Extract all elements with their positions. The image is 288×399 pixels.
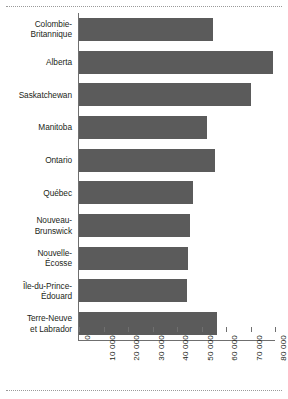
bar-category-label-line2: Écosse	[0, 258, 72, 268]
bar-category-label-line2: Brunswick	[0, 226, 72, 236]
x-axis-tick-label: 50 000	[206, 335, 215, 361]
bar	[79, 181, 193, 204]
bar-category-label-line1: Terre-Neuve	[0, 313, 72, 323]
bar-category-label: Saskatchewan	[0, 90, 72, 100]
bar-category-label: Ontario	[0, 155, 72, 165]
bar-row: Manitoba	[0, 111, 288, 144]
bar-category-label-line2: Britannique	[0, 29, 72, 39]
bar-row: Nouvelle-Écosse	[0, 242, 288, 275]
bar-category-label-line1: Alberta	[0, 57, 72, 67]
bar-category-label: Nouveau-Brunswick	[0, 215, 72, 235]
x-axis-tick-label: 20 000	[132, 335, 141, 361]
x-axis-tick	[153, 327, 154, 332]
bar-category-label-line1: Manitoba	[0, 122, 72, 132]
bar	[79, 51, 273, 74]
x-axis-tick	[177, 327, 178, 332]
bar-row: Ontario	[0, 144, 288, 177]
x-axis-tick	[275, 327, 276, 332]
x-axis-tick	[202, 327, 203, 332]
bar-category-label-line2: Édouard	[0, 291, 72, 301]
bar	[79, 149, 215, 172]
x-axis-tick-label: 40 000	[181, 335, 190, 361]
bar	[79, 214, 190, 237]
bar-category-label-line1: Nouveau-	[0, 215, 72, 225]
bar-row: Alberta	[0, 46, 288, 79]
x-axis-tick-label: 80 000	[279, 335, 288, 361]
top-dotted-rule	[6, 6, 282, 8]
x-axis-tick-label: 30 000	[157, 335, 166, 361]
bar-row: Colombie-Britannique	[0, 13, 288, 46]
bar	[79, 18, 213, 41]
bar	[79, 247, 188, 270]
bar-rows: Colombie-BritanniqueAlbertaSaskatchewanM…	[0, 13, 288, 340]
bar-row: Île-du-Prince-Édouard	[0, 275, 288, 308]
x-axis-tick-label: 60 000	[230, 335, 239, 361]
x-axis-ticks: 010 00020 00030 00040 00050 00060 00070 …	[0, 327, 288, 399]
x-axis-tick-label: 70 000	[255, 335, 264, 361]
x-axis-tick	[226, 327, 227, 332]
bar-category-label-line1: Ontario	[0, 155, 72, 165]
plot-area: Colombie-BritanniqueAlbertaSaskatchewanM…	[0, 13, 288, 343]
bar-category-label-line1: Nouvelle-	[0, 248, 72, 258]
bar-row: Québec	[0, 177, 288, 210]
bar	[79, 83, 251, 106]
bar-category-label-line1: Colombie-	[0, 19, 72, 29]
bar	[79, 116, 207, 139]
bar-category-label-line1: Saskatchewan	[0, 90, 72, 100]
x-axis-tick-label: 0	[83, 335, 92, 340]
bar-category-label-line1: Île-du-Prince-	[0, 281, 72, 291]
x-axis-tick	[79, 327, 80, 332]
x-axis-tick	[104, 327, 105, 332]
x-axis-tick-label: 10 000	[108, 335, 117, 361]
bar-chart-figure: Colombie-BritanniqueAlbertaSaskatchewanM…	[0, 0, 288, 399]
bar-category-label: Québec	[0, 188, 72, 198]
bar-category-label: Colombie-Britannique	[0, 19, 72, 39]
bar-category-label: Manitoba	[0, 122, 72, 132]
x-axis-tick	[128, 327, 129, 332]
bar-category-label-line1: Québec	[0, 188, 72, 198]
bar-row: Nouveau-Brunswick	[0, 209, 288, 242]
bar	[79, 279, 187, 302]
x-axis-tick	[251, 327, 252, 332]
bar-row: Saskatchewan	[0, 78, 288, 111]
bar-category-label: Île-du-Prince-Édouard	[0, 281, 72, 301]
bar-category-label: Nouvelle-Écosse	[0, 248, 72, 268]
bar-category-label: Alberta	[0, 57, 72, 67]
